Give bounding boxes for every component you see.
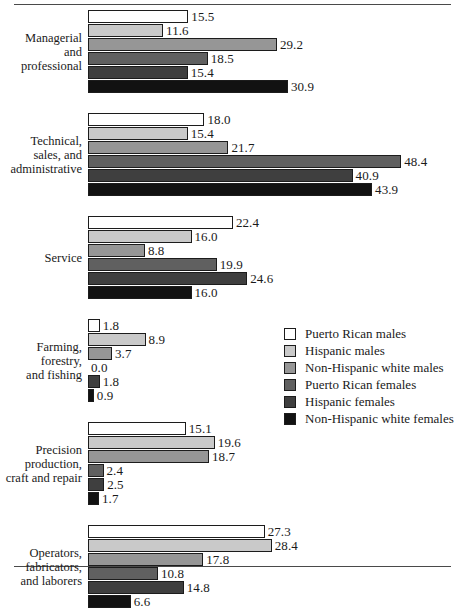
legend-swatch: [284, 396, 296, 408]
category-label: Managerialandprofessional: [0, 31, 88, 73]
bar: [88, 66, 188, 79]
bar: [88, 272, 247, 285]
bar: [88, 216, 233, 229]
bar: [88, 38, 277, 51]
bar-group: Operators,fabricators,and laborers27.328…: [0, 525, 465, 609]
bar-group: Precisionproduction,craft and repair15.1…: [0, 422, 465, 506]
category-label-line: Precision: [0, 443, 82, 457]
bar-value-label: 16.0: [192, 286, 218, 299]
bar-row: 21.7: [88, 141, 465, 154]
bar-group: Technical,sales, andadministrative18.015…: [0, 113, 465, 197]
legend-label: Puerto Rican males: [296, 327, 406, 341]
bar-row: 22.4: [88, 216, 465, 229]
bar: [88, 553, 203, 566]
legend-item: Puerto Rican females: [284, 377, 464, 393]
bar-row: 40.9: [88, 169, 465, 182]
bar-chart-plot: Managerialandprofessional15.511.629.218.…: [0, 10, 465, 612]
bar-row: 19.6: [88, 436, 465, 449]
legend-swatch: [284, 362, 296, 374]
bar-value-label: 1.8: [100, 375, 120, 388]
bar: [88, 230, 192, 243]
bar-value-label: 11.6: [163, 24, 189, 37]
bar: [88, 539, 272, 552]
category-label-line: Managerial: [0, 31, 82, 45]
category-label-line: craft and repair: [0, 471, 82, 485]
bar-row: 16.0: [88, 286, 465, 299]
bar-value-label: 18.5: [208, 52, 234, 65]
category-label-line: and laborers: [0, 574, 82, 588]
chart-legend: Puerto Rican malesHispanic malesNon-Hisp…: [284, 326, 464, 428]
bar-row: 2.4: [88, 464, 465, 477]
bar-value-label: 27.3: [265, 525, 291, 538]
bar-value-label: 0.9: [94, 389, 114, 402]
bar: [88, 24, 163, 37]
bar-row: 11.6: [88, 24, 465, 37]
bar-value-label: 24.6: [247, 272, 273, 285]
bar-value-label: 19.6: [215, 436, 241, 449]
bar: [88, 375, 100, 388]
bar-row: 18.7: [88, 450, 465, 463]
bar: [88, 492, 99, 505]
bar-stack: 18.015.421.748.440.943.9: [88, 113, 465, 197]
bar-row: 30.9: [88, 80, 465, 93]
bar-row: 6.6: [88, 595, 465, 608]
category-label-line: Technical,: [0, 134, 82, 148]
bar-value-label: 2.4: [104, 464, 124, 477]
bar-value-label: 10.8: [158, 567, 184, 580]
legend-swatch: [284, 379, 296, 391]
legend-label: Puerto Rican females: [296, 378, 416, 392]
category-label-line: Farming,: [0, 340, 82, 354]
top-rule: [14, 4, 451, 5]
bar-value-label: 6.6: [131, 595, 151, 608]
bar-row: 18.0: [88, 113, 465, 126]
bar: [88, 319, 100, 332]
bar: [88, 422, 186, 435]
bar-value-label: 28.4: [272, 539, 298, 552]
bar-row: 2.5: [88, 478, 465, 491]
legend-item: Hispanic females: [284, 394, 464, 410]
bar-group: Service22.416.08.819.924.616.0: [0, 216, 465, 300]
bar-value-label: 22.4: [233, 216, 259, 229]
bar: [88, 80, 288, 93]
bar: [88, 450, 209, 463]
bar: [88, 347, 112, 360]
bar: [88, 127, 188, 140]
legend-swatch: [284, 345, 296, 357]
bar: [88, 169, 353, 182]
bar: [88, 10, 188, 23]
bar-stack: 22.416.08.819.924.616.0: [88, 216, 465, 300]
bar-row: 10.8: [88, 567, 465, 580]
bar: [88, 244, 145, 257]
category-label: Precisionproduction,craft and repair: [0, 443, 88, 485]
bar-value-label: 0.0: [88, 361, 108, 374]
legend-item: Non-Hispanic white males: [284, 360, 464, 376]
bar-value-label: 3.7: [112, 347, 132, 360]
bar-value-label: 14.8: [184, 581, 210, 594]
category-label: Operators,fabricators,and laborers: [0, 546, 88, 588]
bar: [88, 52, 208, 65]
bar-row: 48.4: [88, 155, 465, 168]
bar-value-label: 1.7: [99, 492, 119, 505]
bar: [88, 478, 104, 491]
category-label-line: forestry,: [0, 354, 82, 368]
category-label-line: fabricators,: [0, 560, 82, 574]
bar-row: 8.8: [88, 244, 465, 257]
legend-swatch: [284, 328, 296, 340]
bar-stack: 27.328.417.810.814.86.6: [88, 525, 465, 609]
category-label-line: and fishing: [0, 368, 82, 382]
legend-item: Non-Hispanic white females: [284, 411, 464, 427]
bar-value-label: 29.2: [277, 38, 303, 51]
bar-row: 15.4: [88, 66, 465, 79]
bar-value-label: 40.9: [353, 169, 379, 182]
legend-label: Non-Hispanic white males: [296, 361, 444, 375]
bar-row: 18.5: [88, 52, 465, 65]
bar-row: 27.3: [88, 525, 465, 538]
category-label-line: professional: [0, 59, 82, 73]
bar-row: 29.2: [88, 38, 465, 51]
bar: [88, 567, 158, 580]
legend-label: Hispanic males: [296, 344, 385, 358]
bar: [88, 464, 104, 477]
bar-value-label: 18.7: [209, 450, 235, 463]
legend-label: Non-Hispanic white females: [296, 412, 454, 426]
